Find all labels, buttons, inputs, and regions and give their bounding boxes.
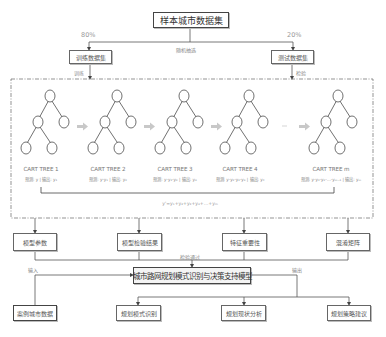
tree-2-desc: 预测: y-y₁ | 输出: y₂ bbox=[89, 176, 127, 182]
train-dataset-box: 训练数据集 bbox=[69, 50, 112, 64]
tree-m-name: CART TREE m bbox=[313, 166, 350, 172]
tree-3-desc: 预测: y-y₁-y₂ | 输出: y₃ bbox=[153, 176, 196, 182]
tree-1-name: CART TREE 1 bbox=[23, 166, 58, 172]
tree-1-desc: 预测: y | 输出: y₁ bbox=[25, 176, 57, 182]
decision-support-model-box: 城市路网规划模式识别与决策支持模型 bbox=[133, 267, 251, 284]
pattern-recognition-box: 规划模式识别 bbox=[116, 305, 161, 321]
sample-city-dataset-box: 样本城市数据集 bbox=[153, 12, 229, 28]
input-label: 输入 bbox=[28, 266, 38, 273]
train-percent-label: 80% bbox=[81, 31, 95, 39]
feature-importance-box: 特征重要性 bbox=[222, 233, 267, 251]
ensemble-formula: y'=y₁+y₂+y₃+y₄+…+yₘ bbox=[162, 201, 218, 206]
model-validation-box: 模型检验结果 bbox=[117, 233, 162, 251]
status-analysis-box: 规划现状分析 bbox=[221, 305, 266, 321]
case-city-data-box: 案例城市数据 bbox=[13, 305, 57, 321]
test-label: 检验 bbox=[296, 69, 306, 76]
train-label: 训练 bbox=[74, 69, 84, 76]
tree-m-desc: 预测: y-y₁-y₂-…-yₘ₋₁ | 输出: yₘ bbox=[301, 176, 361, 182]
strategy-suggestion-box: 规划策略建议 bbox=[327, 305, 371, 321]
test-percent-label: 20% bbox=[287, 31, 301, 39]
tree-3-name: CART TREE 3 bbox=[157, 166, 192, 172]
model-params-box: 模型参数 bbox=[13, 233, 57, 251]
cart-trees bbox=[21, 90, 357, 154]
random-sampling-label: 随机抽选 bbox=[176, 46, 196, 53]
tree-2-name: CART TREE 2 bbox=[90, 166, 125, 172]
validation-passed-label: 检验通过 bbox=[180, 253, 200, 260]
confusion-matrix-box: 混淆矩阵 bbox=[326, 233, 370, 251]
tree-4-name: CART TREE 4 bbox=[222, 166, 257, 172]
test-dataset-box: 测试数据集 bbox=[271, 50, 314, 64]
output-label: 输出 bbox=[292, 266, 302, 273]
tree-4-desc: 预测: y-y₁-y₂-y₃ | 输出: y₄ bbox=[216, 176, 265, 182]
